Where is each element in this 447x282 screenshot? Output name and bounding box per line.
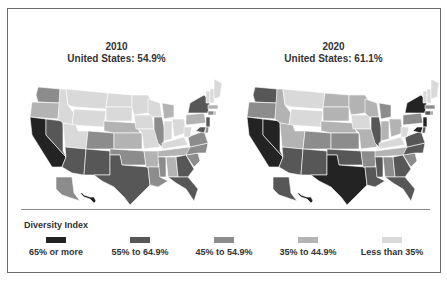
state-hi [80, 193, 96, 203]
legend-swatch [298, 237, 318, 243]
state-ks [331, 133, 359, 149]
state-sd [106, 107, 132, 121]
state-wa [36, 87, 60, 103]
state-co [86, 131, 114, 149]
state-ia [351, 115, 371, 129]
state-wy [289, 109, 323, 127]
state-in [381, 121, 389, 141]
legend-divider [21, 209, 430, 210]
legend-swatch [130, 237, 150, 243]
state-ut [280, 123, 305, 149]
state-pa [186, 113, 206, 125]
map-panel-2020: 2020 United States: 61.1% [225, 9, 442, 209]
legend: 65% or more 55% to 64.9% 45% to 54.9% 35… [8, 237, 440, 267]
state-az [62, 147, 86, 175]
state-co [303, 131, 331, 149]
state-ne [104, 121, 140, 133]
map-panel-2010: 2010 United States: 54.9% [8, 9, 225, 209]
state-me [214, 79, 222, 99]
state-ar [361, 151, 377, 167]
legend-label: 35% to 44.9% [266, 247, 350, 257]
state-ar [144, 151, 160, 167]
state-me [431, 79, 439, 99]
state-ct [425, 111, 431, 115]
legend-label: 45% to 54.9% [182, 247, 266, 257]
state-nj [423, 117, 427, 127]
state-ia [134, 115, 154, 129]
state-wi [148, 99, 162, 117]
legend-item: 45% to 54.9% [182, 237, 266, 257]
state-wv [401, 127, 409, 137]
legend-item: 55% to 64.9% [98, 237, 182, 257]
us-choropleth-map [225, 9, 442, 209]
legend-item: 65% or more [14, 237, 98, 257]
state-pa [403, 113, 423, 125]
state-nj [206, 117, 210, 127]
state-az [279, 147, 303, 175]
state-de [205, 127, 209, 133]
state-nh [210, 89, 214, 103]
state-de [422, 127, 426, 133]
legend-item: 35% to 44.9% [266, 237, 350, 257]
state-vt [206, 91, 210, 103]
state-vt [423, 91, 427, 103]
state-ma [208, 105, 218, 109]
legend-label: Less than 35% [350, 247, 434, 257]
state-fl [168, 177, 198, 201]
us-choropleth-map [8, 9, 225, 209]
state-ri [431, 111, 433, 115]
legend-label: 55% to 64.9% [98, 247, 182, 257]
legend-item: Less than 35% [350, 237, 434, 257]
state-or [30, 102, 60, 119]
state-mi [379, 103, 391, 119]
state-mt [283, 89, 325, 109]
legend-label: 65% or more [14, 247, 98, 257]
legend-swatch [214, 237, 234, 243]
state-ma [425, 105, 435, 109]
state-wi [365, 99, 379, 117]
state-nd [323, 93, 349, 107]
state-md [196, 127, 206, 133]
legend-swatch [382, 237, 402, 243]
state-ak [56, 177, 80, 201]
state-hi [297, 193, 313, 203]
state-mi [162, 103, 174, 119]
state-ut [63, 123, 88, 149]
state-nd [106, 93, 132, 107]
state-md [413, 127, 423, 133]
state-ak [273, 177, 297, 201]
legend-swatch [46, 237, 66, 243]
state-nh [427, 89, 431, 103]
state-ks [114, 133, 142, 149]
state-wv [184, 127, 192, 137]
state-mt [66, 89, 108, 109]
state-wa [253, 87, 277, 103]
state-wy [72, 109, 106, 127]
state-nm [84, 149, 110, 175]
state-fl [385, 177, 415, 201]
state-sd [323, 107, 349, 121]
state-ne [321, 121, 357, 133]
figure-frame: 2010 United States: 54.9% 2020 United St… [7, 8, 441, 273]
state-in [164, 121, 172, 141]
state-nm [301, 149, 327, 175]
state-or [247, 102, 277, 119]
state-ri [214, 111, 216, 115]
state-ct [208, 111, 214, 115]
legend-title: Diversity Index [24, 220, 88, 230]
